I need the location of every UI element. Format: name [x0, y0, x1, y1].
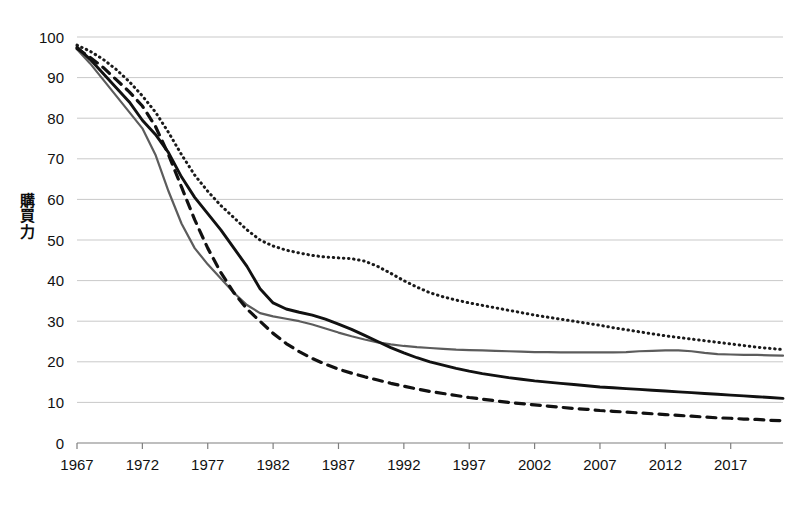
- y-tick-label: 40: [47, 272, 64, 289]
- y-axis-title-char-3: 力: [14, 225, 40, 240]
- y-tick-label: 100: [39, 29, 64, 46]
- y-tick-label: 60: [47, 191, 64, 208]
- x-tick-label: 2007: [583, 456, 616, 473]
- y-tick-label: 70: [47, 150, 64, 167]
- x-tick-label: 1987: [322, 456, 355, 473]
- x-tick-label: 2002: [518, 456, 551, 473]
- x-tick-label: 1977: [191, 456, 224, 473]
- y-tick-label: 50: [47, 232, 64, 249]
- chart-canvas: 0102030405060708090100 19671972197719821…: [0, 0, 797, 507]
- y-tick-label: 80: [47, 110, 64, 127]
- y-tick-label: 0: [56, 435, 64, 452]
- x-tick-label: 1967: [60, 456, 93, 473]
- y-tick-label: 20: [47, 353, 64, 370]
- x-tick-label: 2017: [714, 456, 747, 473]
- y-tick-label: 10: [47, 394, 64, 411]
- x-tick-label: 1972: [126, 456, 159, 473]
- y-tick-label: 30: [47, 313, 64, 330]
- x-tick-label: 1992: [387, 456, 420, 473]
- y-tick-label: 90: [47, 69, 64, 86]
- x-tick-label: 1997: [453, 456, 486, 473]
- chart-background: [0, 0, 797, 507]
- x-tick-label: 2012: [649, 456, 682, 473]
- y-axis-title: 購 買 力: [14, 194, 40, 240]
- x-tick-label: 1982: [256, 456, 289, 473]
- purchasing-power-line-chart: 0102030405060708090100 19671972197719821…: [0, 0, 797, 507]
